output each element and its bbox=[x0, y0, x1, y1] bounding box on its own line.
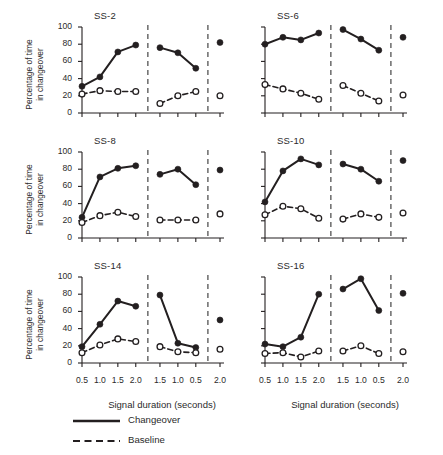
panel-ss-8 bbox=[78, 150, 224, 242]
series-line-baseline bbox=[265, 351, 319, 357]
series-line-changeover bbox=[82, 301, 136, 347]
y-axis-label-line2: in changeover bbox=[34, 29, 45, 121]
data-point-changeover bbox=[376, 178, 382, 184]
data-point-changeover bbox=[376, 308, 382, 314]
data-point-changeover bbox=[400, 158, 406, 164]
series-line-baseline bbox=[82, 339, 136, 353]
series-line-changeover bbox=[343, 279, 379, 311]
series-line-changeover bbox=[265, 294, 319, 346]
data-point-baseline bbox=[316, 215, 322, 221]
panel-ss-6 bbox=[261, 25, 407, 117]
series-line-baseline bbox=[265, 85, 319, 100]
panel-title: SS-16 bbox=[277, 260, 304, 271]
panel-ss-2 bbox=[78, 25, 224, 117]
y-tick-label: 100 bbox=[40, 21, 72, 31]
series-line-changeover bbox=[160, 295, 196, 347]
data-point-changeover bbox=[115, 165, 121, 171]
data-point-baseline bbox=[97, 342, 103, 348]
legend-label-baseline: Baseline bbox=[128, 434, 165, 445]
data-point-baseline bbox=[133, 339, 139, 345]
data-point-baseline bbox=[79, 350, 85, 356]
data-point-baseline bbox=[79, 91, 85, 97]
data-point-baseline bbox=[193, 89, 199, 95]
data-point-changeover bbox=[298, 156, 304, 162]
data-point-changeover bbox=[298, 334, 304, 340]
data-point-baseline bbox=[133, 89, 139, 95]
series-line-baseline bbox=[265, 206, 319, 218]
data-point-changeover bbox=[358, 166, 364, 172]
data-point-changeover bbox=[175, 340, 181, 346]
y-tick-label: 40 bbox=[40, 73, 72, 83]
series-line-changeover bbox=[265, 33, 319, 44]
panel-title: SS-10 bbox=[277, 135, 304, 146]
data-point-changeover bbox=[133, 163, 139, 169]
data-point-baseline bbox=[376, 98, 382, 104]
data-point-changeover bbox=[175, 50, 181, 56]
data-point-baseline bbox=[358, 343, 364, 349]
y-axis-label: Percentage of timein changeover bbox=[24, 154, 45, 246]
data-point-changeover bbox=[280, 34, 286, 40]
data-point-baseline bbox=[115, 89, 121, 95]
data-point-changeover bbox=[115, 298, 121, 304]
y-axis-label: Percentage of timein changeover bbox=[24, 279, 45, 371]
data-point-changeover bbox=[97, 74, 103, 80]
data-point-baseline bbox=[193, 217, 199, 223]
data-point-baseline bbox=[157, 101, 163, 107]
data-point-changeover bbox=[400, 34, 406, 40]
data-point-baseline bbox=[316, 348, 322, 354]
plot-canvas bbox=[0, 0, 443, 455]
data-point-baseline bbox=[262, 351, 268, 357]
data-point-baseline bbox=[340, 216, 346, 222]
data-point-changeover bbox=[115, 49, 121, 55]
data-point-changeover bbox=[358, 36, 364, 42]
data-point-baseline bbox=[358, 211, 364, 217]
data-point-changeover bbox=[157, 45, 163, 51]
data-point-baseline bbox=[175, 349, 181, 355]
y-tick-label: 20 bbox=[40, 90, 72, 100]
x-tick-label: 2.0 bbox=[206, 375, 234, 385]
data-point-baseline bbox=[79, 220, 85, 226]
y-tick-label: 40 bbox=[40, 198, 72, 208]
data-point-changeover bbox=[376, 47, 382, 53]
data-point-changeover bbox=[97, 321, 103, 327]
y-tick-label: 60 bbox=[40, 55, 72, 65]
data-point-baseline bbox=[175, 217, 181, 223]
data-point-baseline bbox=[280, 350, 286, 356]
data-point-changeover bbox=[262, 41, 268, 47]
data-point-baseline bbox=[298, 90, 304, 96]
y-tick-label: 40 bbox=[40, 323, 72, 333]
data-point-baseline bbox=[376, 214, 382, 220]
y-tick-label: 0 bbox=[40, 357, 72, 367]
y-tick-label: 20 bbox=[40, 340, 72, 350]
x-axis-label: Signal duration (seconds) bbox=[271, 399, 419, 410]
data-point-changeover bbox=[193, 182, 199, 188]
figure-root: 020406080100SS-2SS-6020406080100SS-8SS-1… bbox=[0, 0, 443, 455]
data-point-changeover bbox=[79, 83, 85, 89]
y-tick-label: 80 bbox=[40, 38, 72, 48]
data-point-changeover bbox=[340, 286, 346, 292]
data-point-changeover bbox=[262, 199, 268, 205]
data-point-baseline bbox=[217, 93, 223, 99]
data-point-baseline bbox=[115, 336, 121, 342]
series-line-changeover bbox=[82, 45, 136, 86]
data-point-baseline bbox=[262, 212, 268, 218]
data-point-changeover bbox=[358, 276, 364, 282]
data-point-baseline bbox=[400, 210, 406, 216]
y-tick-label: 100 bbox=[40, 271, 72, 281]
data-point-baseline bbox=[400, 349, 406, 355]
data-point-changeover bbox=[217, 167, 223, 173]
data-point-changeover bbox=[280, 344, 286, 350]
data-point-baseline bbox=[157, 344, 163, 350]
y-axis-label-line2: in changeover bbox=[34, 279, 45, 371]
data-point-baseline bbox=[280, 203, 286, 209]
y-axis-label-line2: in changeover bbox=[34, 154, 45, 246]
data-point-changeover bbox=[79, 344, 85, 350]
x-tick-label: 2.0 bbox=[389, 375, 417, 385]
data-point-changeover bbox=[193, 65, 199, 71]
data-point-changeover bbox=[97, 174, 103, 180]
data-point-baseline bbox=[97, 88, 103, 94]
data-point-baseline bbox=[97, 213, 103, 219]
data-point-changeover bbox=[157, 171, 163, 177]
data-point-baseline bbox=[217, 346, 223, 352]
data-point-baseline bbox=[262, 82, 268, 88]
